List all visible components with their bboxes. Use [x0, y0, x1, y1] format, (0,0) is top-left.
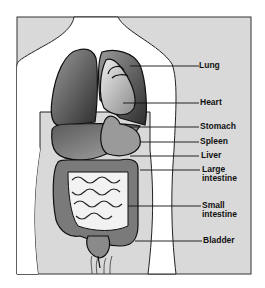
- label-lung: Lung: [199, 61, 220, 70]
- label-spleen: Spleen: [200, 137, 228, 146]
- label-small-intestine: Small intestine: [202, 201, 237, 219]
- label-bladder: Bladder: [203, 236, 235, 245]
- label-heart: Heart: [200, 98, 222, 107]
- label-large-intestine: Large intestine: [202, 165, 237, 183]
- label-liver: Liver: [201, 151, 221, 160]
- label-stomach: Stomach: [200, 122, 236, 131]
